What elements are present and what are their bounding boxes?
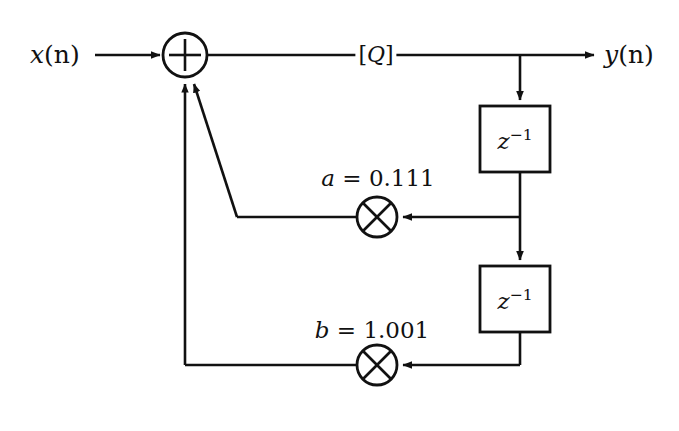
input-signal-variable: x (30, 40, 44, 69)
multiplier-a-coefficient-label: a = 0.111 (321, 167, 434, 190)
input-signal-label: x(n) (30, 42, 80, 67)
quantizer-symbol: Q (367, 42, 385, 67)
quantizer-label: [Q] (355, 44, 396, 66)
diagram-canvas (0, 0, 679, 431)
wire-multiplier-a-to-adder (194, 84, 237, 217)
output-signal-variable: y (604, 40, 618, 69)
delay-1-base: z (497, 128, 509, 154)
quantizer-bracket-open: [ (358, 42, 367, 67)
input-signal-argument: (n) (44, 40, 80, 69)
output-signal-label: y(n) (604, 42, 654, 67)
quantizer-bracket-close: ] (385, 42, 394, 67)
delay-2-label: z−1 (497, 287, 532, 313)
delay-1-label: z−1 (497, 127, 532, 153)
coefficient-a-name: a (321, 165, 335, 191)
delay-2-exponent: −1 (510, 285, 533, 304)
coefficient-b-value: 1.001 (363, 317, 429, 343)
coefficient-a-equals: = (342, 165, 361, 191)
delay-2-base: z (497, 288, 509, 314)
delay-1-exponent: −1 (510, 125, 533, 144)
coefficient-a-value: 0.111 (369, 165, 435, 191)
coefficient-b-name: b (315, 317, 330, 343)
multiplier-b-coefficient-label: b = 1.001 (315, 319, 430, 342)
output-signal-argument: (n) (618, 40, 654, 69)
signal-flow-diagram: x(n) y(n) [Q] z−1 z−1 a = 0.111 b = 1.00… (0, 0, 679, 431)
coefficient-b-equals: = (337, 317, 356, 343)
